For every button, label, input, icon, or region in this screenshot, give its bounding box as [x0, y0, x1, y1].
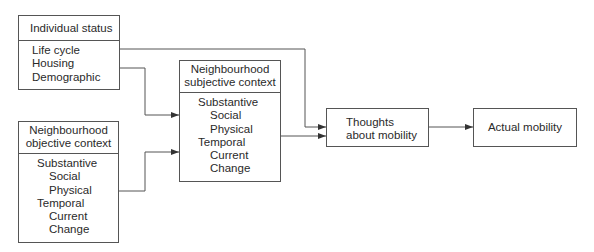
- item-substantive: Substantive: [198, 96, 280, 109]
- individual-status-items: Life cycle Housing Demographic: [19, 41, 119, 84]
- actual-mobility-label: Actual mobility: [488, 121, 562, 134]
- item-housing: Housing: [32, 57, 119, 70]
- objective-context-items: Substantive Social Physical Temporal Cur…: [19, 154, 118, 237]
- thoughts-line2: about mobility: [346, 129, 428, 142]
- item-physical: Physical: [37, 184, 118, 197]
- item-change: Change: [198, 162, 280, 175]
- subjective-context-title: Neighbourhood subjective context: [180, 61, 280, 93]
- thoughts-about-mobility-box: Thoughts about mobility: [326, 108, 429, 147]
- objective-title-line1: Neighbourhood: [19, 124, 118, 137]
- item-substantive: Substantive: [37, 157, 118, 170]
- thoughts-line1: Thoughts: [346, 116, 428, 129]
- edge-objective-to-subjective: [118, 152, 179, 191]
- objective-title-line2: objective context: [19, 137, 118, 150]
- item-life-cycle: Life cycle: [32, 44, 119, 57]
- individual-status-title: Individual status: [19, 16, 119, 41]
- subjective-context-box: Neighbourhood subjective context Substan…: [179, 60, 281, 182]
- subjective-context-items: Substantive Social Physical Temporal Cur…: [180, 93, 280, 176]
- item-temporal: Temporal: [37, 197, 118, 210]
- edge-individual-to-subjective: [119, 68, 179, 115]
- item-social: Social: [37, 170, 118, 183]
- item-current: Current: [198, 149, 280, 162]
- item-current: Current: [37, 210, 118, 223]
- item-demographic: Demographic: [32, 71, 119, 84]
- item-temporal: Temporal: [198, 136, 280, 149]
- individual-status-box: Individual status Life cycle Housing Dem…: [18, 15, 120, 90]
- actual-mobility-box: Actual mobility: [473, 108, 577, 147]
- subjective-title-line2: subjective context: [180, 76, 280, 89]
- objective-context-title: Neighbourhood objective context: [19, 122, 118, 154]
- objective-context-box: Neighbourhood objective context Substant…: [18, 121, 119, 243]
- item-social: Social: [198, 109, 280, 122]
- item-change: Change: [37, 223, 118, 236]
- item-physical: Physical: [198, 123, 280, 136]
- subjective-title-line1: Neighbourhood: [180, 63, 280, 76]
